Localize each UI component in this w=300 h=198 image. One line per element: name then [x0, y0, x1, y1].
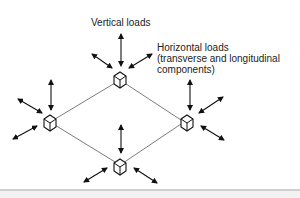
- right-node-arrows: [190, 80, 224, 140]
- node-top-cube: [114, 72, 126, 88]
- top-node-arrows: [92, 34, 152, 68]
- horizontal-loads-detail-line1: (transverse and longitudinal: [157, 53, 280, 64]
- frame-connectors: [50, 80, 184, 165]
- bottom-strip: [0, 191, 300, 198]
- node-left-cube: [44, 115, 56, 131]
- node-bottom-cube: [114, 159, 126, 175]
- horizontal-loads-label: Horizontal loads: [157, 42, 229, 53]
- horizontal-loads-detail-line2: components): [157, 64, 215, 75]
- vertical-loads-label: Vertical loads: [91, 17, 150, 28]
- node-right-cube: [181, 115, 193, 131]
- left-node-arrows: [13, 80, 51, 139]
- load-diagram: Vertical loads Horizontal loads (transve…: [0, 0, 300, 198]
